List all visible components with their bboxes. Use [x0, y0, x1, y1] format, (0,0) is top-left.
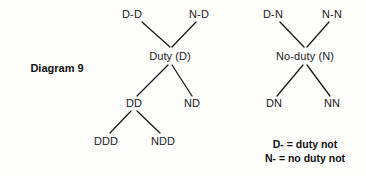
tree-node-nd: ND [184, 97, 200, 109]
figure-caption: Diagram 9 [30, 62, 83, 74]
tree-node-d-n: D-N [263, 8, 283, 20]
tree-node-n-n: N-N [322, 8, 342, 20]
tree-edge-n-d-duty [172, 22, 196, 47]
tree-node-dn: DN [266, 97, 282, 109]
tree-node-nn: NN [324, 97, 340, 109]
tree-edge-n-n-no-duty [307, 22, 329, 47]
tree-edge-duty-nd [172, 65, 192, 96]
tree-node-no-duty: No-duty (N) [276, 50, 334, 62]
tree-edge-d-n-no-duty [280, 22, 304, 47]
tree-node-duty: Duty (D) [149, 50, 191, 62]
legend-n: N- = no duty not [265, 152, 345, 164]
tree-edge-no-duty-nn [307, 65, 330, 96]
tree-node-dd: DD [126, 97, 142, 109]
tree-edge-dd-ddd [110, 111, 131, 133]
legend-d: D- = duty not [273, 138, 337, 150]
diagram-canvas: D-DN-DDuty (D)DDNDDDDNDDD-NN-NNo-duty (N… [0, 0, 366, 176]
tree-edge-no-duty-dn [277, 65, 303, 96]
tree-edge-dd-ndd [137, 111, 160, 133]
tree-node-d-d: D-D [122, 8, 142, 20]
tree-edge-duty-dd [137, 65, 168, 96]
tree-node-ddd: DDD [94, 135, 118, 147]
tree-edge-d-d-duty [142, 22, 170, 47]
tree-node-n-d: N-D [189, 8, 209, 20]
tree-node-ndd: NDD [151, 135, 175, 147]
